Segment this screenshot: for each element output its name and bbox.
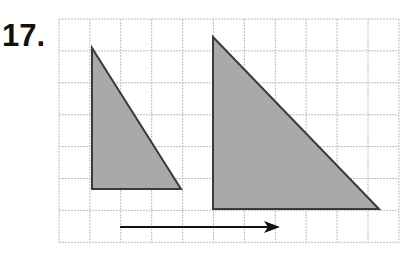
large-triangle <box>213 37 379 209</box>
translation-arrow <box>120 221 280 233</box>
small-triangle <box>92 48 181 189</box>
figure-canvas <box>0 0 420 254</box>
